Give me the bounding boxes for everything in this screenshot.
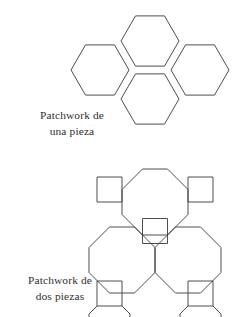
caption-one-piece-line1: Patchwork de — [8, 108, 136, 124]
octagon-tile-top — [122, 169, 188, 235]
figure-one-piece — [0, 0, 242, 317]
page-canvas: Patchwork de una pieza — [0, 0, 242, 317]
caption-one-piece-line2: una pieza — [8, 124, 136, 140]
octagon-tile-bottom-right — [155, 227, 221, 293]
octagon-square-tiling-diagram — [0, 0, 242, 317]
octagon-tile-partial-bottom-left — [89, 306, 97, 317]
hexagon-tile-right — [171, 45, 229, 95]
octagon-tile-partial-bottom-right-inner — [213, 306, 221, 317]
square-tile-upper-left — [97, 177, 122, 202]
square-tile-upper-right — [188, 177, 213, 202]
square-tile-center — [143, 219, 168, 244]
figure-two-piece — [0, 0, 242, 317]
octagon-tile-partial-bottom-right — [180, 306, 188, 317]
caption-one-piece: Patchwork de una pieza — [8, 108, 136, 139]
octagon-tile-partial-bottom-left-inner — [122, 306, 130, 317]
square-tile-lower-right — [188, 281, 213, 306]
hexagon-tiling-diagram — [0, 0, 242, 317]
caption-two-piece-line2: dos piezas — [0, 289, 120, 305]
caption-two-piece: Patchwork de dos piezas — [0, 273, 120, 304]
caption-two-piece-line1: Patchwork de — [0, 273, 120, 289]
octagon-partial-group — [89, 306, 221, 317]
hexagon-tile-left — [71, 45, 129, 95]
hexagon-tile-top — [121, 16, 179, 66]
